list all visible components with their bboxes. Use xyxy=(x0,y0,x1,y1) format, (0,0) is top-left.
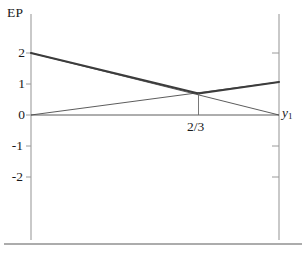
y-axis-title: EP xyxy=(7,6,23,20)
y-tick-label-2: 2 xyxy=(3,46,25,60)
x-axis-end-label: y1 xyxy=(282,106,293,121)
y-tick-label-minus-1: -1 xyxy=(1,139,23,153)
series-line-downward-thick xyxy=(31,53,199,94)
y-tick-label-minus-2: -2 xyxy=(1,170,23,184)
x-tick-label-two-thirds: 2/3 xyxy=(187,120,204,134)
series-line-upward-thick xyxy=(199,82,280,94)
y-tick-label-0: 0 xyxy=(3,108,25,122)
x-axis-end-label-subscript: 1 xyxy=(288,111,293,121)
chart-plot-area xyxy=(0,0,306,253)
chart-figure: EP 2 1 0 -1 -2 2/3 y1 xyxy=(0,0,306,253)
y-tick-label-1: 1 xyxy=(3,77,25,91)
